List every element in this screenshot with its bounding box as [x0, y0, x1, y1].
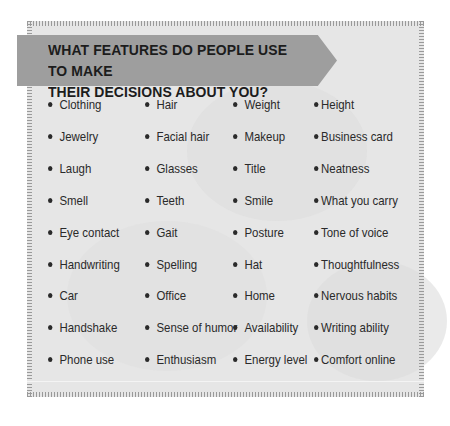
list-item: Phone use — [48, 352, 114, 368]
list-item-label: Thoughtfulness — [321, 257, 399, 272]
list-item-label: Spelling — [156, 257, 197, 272]
list-item-label: What you carry — [321, 193, 398, 208]
list-item: Handwriting — [48, 257, 120, 273]
list-item: Enthusiasm — [145, 352, 216, 368]
list-item: Handshake — [48, 320, 117, 336]
list-item: Smile — [233, 193, 273, 209]
list-item: Teeth — [145, 193, 184, 209]
list-item-label: Weight — [244, 97, 279, 112]
list-item-label: Hair — [156, 97, 177, 112]
list-item: Spelling — [145, 257, 197, 273]
bullet-icon — [48, 230, 52, 235]
list-item-label: Smell — [59, 193, 88, 208]
bullet-icon — [48, 293, 52, 298]
divider-line — [27, 381, 424, 382]
list-item-label: Smile — [244, 193, 273, 208]
bullet-icon — [233, 198, 237, 203]
list-item-label: Availability — [244, 320, 298, 335]
ruler-border-bottom — [27, 392, 424, 397]
list-item: Eye contact — [48, 225, 119, 241]
bullet-icon — [48, 102, 52, 107]
list-item-label: Posture — [244, 225, 283, 240]
bullet-icon — [314, 357, 318, 362]
bullet-icon — [233, 134, 237, 139]
list-item: Neatness — [314, 161, 369, 177]
list-item: Office — [145, 288, 186, 304]
list-item: Thoughtfulness — [314, 257, 399, 273]
bullet-icon — [233, 262, 237, 267]
bullet-icon — [145, 293, 149, 298]
bullet-icon — [233, 230, 237, 235]
list-item-label: Car — [59, 288, 77, 303]
bullet-icon — [233, 357, 237, 362]
bullet-icon — [145, 325, 149, 330]
list-item-label: Energy level — [244, 352, 307, 367]
bullet-icon — [48, 262, 52, 267]
bullet-icon — [145, 134, 149, 139]
bullet-icon — [48, 357, 52, 362]
bullet-icon — [145, 198, 149, 203]
list-item-label: Sense of humor — [156, 320, 237, 335]
bullet-icon — [314, 293, 318, 298]
list-item: Home — [233, 288, 275, 304]
list-item-label: Eye contact — [59, 225, 119, 240]
bullet-icon — [48, 166, 52, 171]
list-item-label: Facial hair — [156, 129, 209, 144]
list-item: Availability — [233, 320, 298, 336]
list-item: Posture — [233, 225, 284, 241]
ruler-border-top — [27, 21, 424, 26]
list-item: Smell — [48, 193, 88, 209]
list-item-label: Hat — [244, 257, 262, 272]
bullet-icon — [233, 166, 237, 171]
list-item: Comfort online — [314, 352, 395, 368]
list-item-label: Writing ability — [321, 320, 389, 335]
list-item: Glasses — [145, 161, 198, 177]
list-item: Writing ability — [314, 320, 389, 336]
bullet-icon — [145, 230, 149, 235]
bullet-icon — [314, 102, 318, 107]
bullet-icon — [145, 262, 149, 267]
bullet-icon — [145, 102, 149, 107]
page-title: WHAT FEATURES DO PEOPLE USE TO MAKE THEI… — [48, 39, 300, 102]
bullet-icon — [145, 166, 149, 171]
list-item: Nervous habits — [314, 288, 397, 304]
list-item: Height — [314, 97, 354, 113]
title-line-1: WHAT FEATURES DO PEOPLE USE TO MAKE — [48, 39, 300, 81]
bullet-icon — [48, 325, 52, 330]
list-item-label: Neatness — [321, 161, 369, 176]
list-item: Facial hair — [145, 129, 209, 145]
list-item: Hat — [233, 257, 262, 273]
bullet-icon — [314, 198, 318, 203]
bullet-icon — [314, 325, 318, 330]
bullet-icon — [233, 102, 237, 107]
list-item: Energy level — [233, 352, 307, 368]
list-item: Makeup — [233, 129, 285, 145]
list-item-label: Handwriting — [59, 257, 119, 272]
list-item-label: Height — [321, 97, 354, 112]
list-item: Tone of voice — [314, 225, 388, 241]
list-item-label: Tone of voice — [321, 225, 388, 240]
list-item-label: Home — [244, 288, 275, 303]
list-item: Gait — [145, 225, 177, 241]
list-item-label: Glasses — [156, 161, 197, 176]
list-item: Laugh — [48, 161, 91, 177]
list-item: Sense of humor — [145, 320, 237, 336]
list-item-label: Gait — [156, 225, 177, 240]
list-item: Business card — [314, 129, 393, 145]
list-item: Weight — [233, 97, 280, 113]
bullet-icon — [314, 166, 318, 171]
list-item-label: Business card — [321, 129, 393, 144]
list-item-label: Nervous habits — [321, 288, 397, 303]
list-item: What you carry — [314, 193, 398, 209]
list-item: Jewelry — [48, 129, 98, 145]
list-item-label: Enthusiasm — [156, 352, 216, 367]
bullet-icon — [314, 230, 318, 235]
list-item: Hair — [145, 97, 177, 113]
bullet-icon — [48, 198, 52, 203]
bullet-icon — [233, 325, 237, 330]
list-item-label: Title — [244, 161, 265, 176]
list-item: Car — [48, 288, 78, 304]
list-item: Clothing — [48, 97, 101, 113]
ruler-border-right — [419, 21, 424, 397]
list-item-label: Comfort online — [321, 352, 395, 367]
